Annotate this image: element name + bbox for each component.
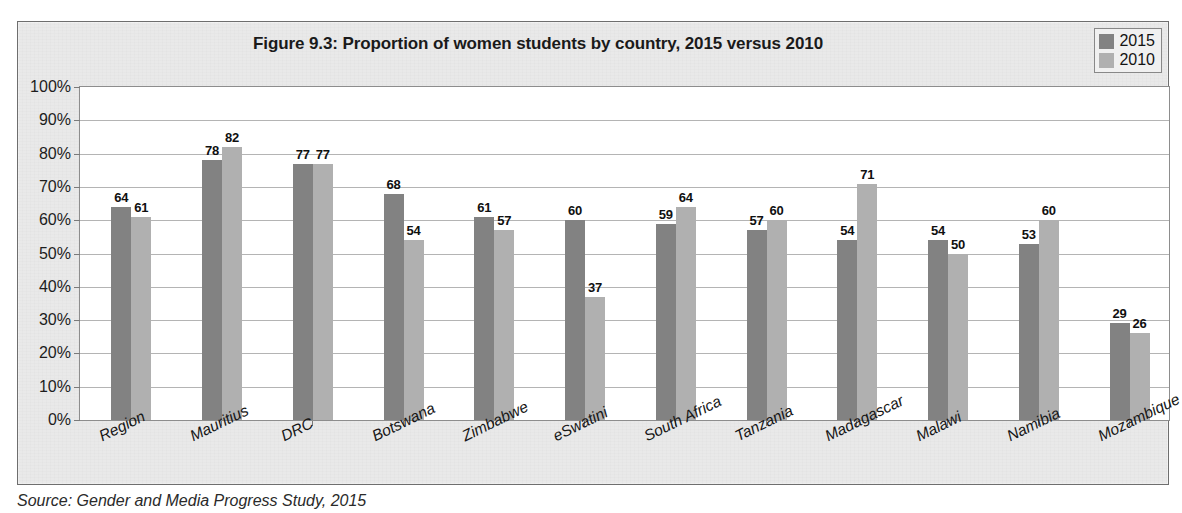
y-tick-mark (74, 287, 80, 288)
bar-group: 2926 (1110, 87, 1150, 420)
y-tick-mark (74, 87, 80, 88)
bar-value-label: 61 (464, 201, 504, 214)
gridline (80, 320, 1169, 321)
chart-title: Figure 9.3: Proportion of women students… (18, 34, 1058, 54)
bar-2015[interactable] (656, 224, 676, 420)
bar-group: 5471 (837, 87, 877, 420)
bar-value-label: 57 (484, 214, 524, 227)
bar-2010[interactable] (585, 297, 605, 420)
y-tick-mark (74, 120, 80, 121)
legend-label: 2010 (1119, 52, 1155, 68)
bar-value-label: 60 (555, 204, 595, 217)
bar-value-label: 37 (575, 281, 615, 294)
legend-item-2015[interactable]: 2015 (1099, 32, 1155, 50)
gridline (80, 254, 1169, 255)
gridline (80, 154, 1169, 155)
source-note: Source: Gender and Media Progress Study,… (17, 492, 366, 510)
y-tick-mark (74, 254, 80, 255)
gridline (80, 120, 1169, 121)
bar-2010[interactable] (857, 184, 877, 420)
bar-2015[interactable] (565, 220, 585, 420)
bar-2015[interactable] (1019, 244, 1039, 420)
bar-2010[interactable] (222, 147, 242, 420)
bar-value-label: 71 (847, 168, 887, 181)
gridline (80, 387, 1169, 388)
x-axis-labels: RegionMauritiusDRCBotswanaZimbabweeSwati… (79, 421, 1170, 483)
y-tick-mark (74, 387, 80, 388)
y-tick-mark (74, 220, 80, 221)
bar-2010[interactable] (494, 230, 514, 420)
legend-swatch-icon (1099, 53, 1114, 68)
bar-value-label: 82 (212, 131, 252, 144)
gridline (80, 220, 1169, 221)
bar-group: 6854 (384, 87, 424, 420)
bar-value-label: 60 (1029, 204, 1069, 217)
y-axis-tick-label: 50% (11, 245, 71, 263)
bar-value-label: 64 (666, 191, 706, 204)
y-tick-mark (74, 320, 80, 321)
bar-2015[interactable] (474, 217, 494, 420)
gridline (80, 353, 1169, 354)
gridline (80, 187, 1169, 188)
bar-2015[interactable] (747, 230, 767, 420)
bar-group: 6461 (111, 87, 151, 420)
bar-group: 6157 (474, 87, 514, 420)
chart-legend: 20152010 (1094, 28, 1162, 73)
bar-value-label: 60 (757, 204, 797, 217)
y-axis-tick-label: 0% (11, 411, 71, 429)
bar-group: 5964 (656, 87, 696, 420)
bar-2015[interactable] (293, 164, 313, 420)
bar-group: 5450 (928, 87, 968, 420)
bar-2010[interactable] (1039, 220, 1059, 420)
bar-group: 7777 (293, 87, 333, 420)
bar-value-label: 54 (394, 224, 434, 237)
bar-value-label: 77 (303, 148, 343, 161)
bar-value-label: 61 (121, 201, 161, 214)
bar-2010[interactable] (131, 217, 151, 420)
bar-2010[interactable] (313, 164, 333, 420)
plot-area: 100%90%80%70%60%50%40%30%20%10%0%6461788… (79, 86, 1170, 421)
bar-2010[interactable] (767, 220, 787, 420)
y-axis-tick-label: 30% (11, 311, 71, 329)
y-axis-tick-label: 40% (11, 278, 71, 296)
y-tick-mark (74, 187, 80, 188)
y-tick-mark (74, 154, 80, 155)
y-tick-mark (74, 353, 80, 354)
bar-group: 7882 (202, 87, 242, 420)
bar-group: 5760 (747, 87, 787, 420)
y-axis-tick-label: 100% (11, 78, 71, 96)
bar-value-label: 54 (918, 224, 958, 237)
y-axis-tick-label: 20% (11, 344, 71, 362)
bar-2015[interactable] (837, 240, 857, 420)
bar-2010[interactable] (948, 254, 968, 421)
legend-label: 2015 (1119, 33, 1155, 49)
figure-frame: Figure 9.3: Proportion of women students… (17, 21, 1169, 485)
bar-value-label: 50 (938, 238, 978, 251)
bar-2015[interactable] (202, 160, 222, 420)
bar-group: 6037 (565, 87, 605, 420)
bar-value-label: 68 (374, 178, 414, 191)
y-axis-tick-label: 80% (11, 145, 71, 163)
y-axis-tick-label: 60% (11, 211, 71, 229)
bar-2015[interactable] (928, 240, 948, 420)
legend-swatch-icon (1099, 34, 1114, 49)
bar-2010[interactable] (404, 240, 424, 420)
y-axis-tick-label: 10% (11, 378, 71, 396)
y-axis-tick-label: 90% (11, 111, 71, 129)
bar-group: 5360 (1019, 87, 1059, 420)
bar-2010[interactable] (676, 207, 696, 420)
bar-2015[interactable] (1110, 323, 1130, 420)
y-axis-tick-label: 70% (11, 178, 71, 196)
legend-item-2010[interactable]: 2010 (1099, 51, 1155, 69)
bar-value-label: 26 (1120, 317, 1160, 330)
bar-2015[interactable] (111, 207, 131, 420)
gridline (80, 287, 1169, 288)
